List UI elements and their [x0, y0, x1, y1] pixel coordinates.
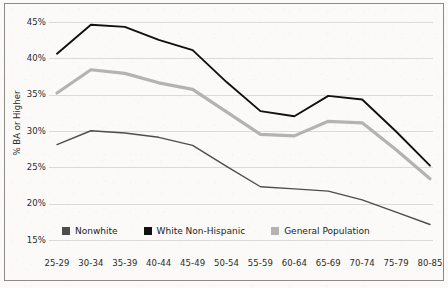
legend-item[interactable]: White Non-Hispanic [144, 226, 246, 236]
x-axis-tick-label: 45-49 [176, 258, 210, 268]
legend-swatch-icon [144, 227, 152, 235]
legend-item[interactable]: General Population [271, 226, 370, 236]
x-axis-tick-label: 50-54 [210, 258, 244, 268]
x-axis-tick-label: 80-85 [413, 258, 447, 268]
y-axis-tick-label: 15% [12, 235, 46, 245]
x-axis-tick-label: 35-39 [108, 258, 142, 268]
chart-container: 45%40%35%30%25%20%15% 25-2930-3435-3940-… [0, 0, 448, 288]
chart-legend: NonwhiteWhite Non-HispanicGeneral Popula… [62, 226, 370, 236]
series-line-nonwhite [57, 131, 430, 225]
x-axis-tick-label: 40-44 [142, 258, 176, 268]
legend-swatch-icon [271, 227, 279, 235]
y-axis-title: % BA or Higher [12, 78, 22, 168]
y-axis-tick-label: 45% [12, 17, 46, 27]
series-lines-group [57, 25, 430, 225]
y-axis-tick-label: 40% [12, 53, 46, 63]
x-axis-tick-label: 55-59 [243, 258, 277, 268]
x-axis-tick-label: 65-69 [311, 258, 345, 268]
y-axis-tick-label: 20% [12, 198, 46, 208]
legend-item-label: General Population [284, 226, 370, 236]
legend-swatch-icon [62, 227, 70, 235]
x-axis-tick-label: 75-79 [379, 258, 413, 268]
line-chart-plot [0, 0, 448, 288]
x-axis-tick-label: 60-64 [277, 258, 311, 268]
x-axis-tick-label: 30-34 [74, 258, 108, 268]
legend-item-label: Nonwhite [75, 226, 118, 236]
x-axis-tick-label: 25-29 [40, 258, 74, 268]
series-line-general-population [57, 70, 430, 179]
legend-item-label: White Non-Hispanic [157, 226, 246, 236]
legend-item[interactable]: Nonwhite [62, 226, 118, 236]
x-axis-tick-label: 70-74 [345, 258, 379, 268]
